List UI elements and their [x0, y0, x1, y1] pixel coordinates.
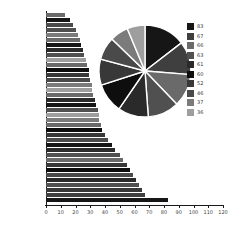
bar: [46, 108, 98, 112]
bar: [46, 178, 136, 182]
legend-swatch: [187, 42, 194, 49]
legend-swatch: [187, 52, 194, 59]
legend-item: 66: [187, 42, 203, 49]
legend-swatch: [187, 80, 194, 87]
bar: [46, 58, 86, 62]
bar: [46, 133, 105, 137]
x-tick-mark: [223, 205, 224, 208]
legend-label: 67: [197, 33, 203, 40]
bar: [46, 98, 95, 102]
x-tick-mark: [194, 205, 195, 208]
bar: [46, 128, 102, 132]
legend-item: 63: [187, 52, 203, 59]
legend-swatch: [187, 90, 194, 97]
x-tick-mark: [135, 205, 136, 208]
bar: [46, 123, 101, 127]
legend-label: 83: [197, 23, 203, 30]
legend-item: 83: [187, 23, 203, 30]
legend-swatch: [187, 23, 194, 30]
x-tick-label: 50: [117, 209, 123, 215]
legend-swatch: [187, 109, 194, 116]
legend-label: 66: [197, 42, 203, 49]
bar: [46, 93, 93, 97]
x-tick-mark: [90, 205, 91, 208]
x-tick-label: 90: [176, 209, 182, 215]
legend-item: 46: [187, 90, 203, 97]
bar: [46, 198, 168, 202]
bar: [46, 83, 92, 87]
bar: [46, 193, 145, 197]
x-tick-label: 30: [87, 209, 93, 215]
x-tick-label: 20: [72, 209, 78, 215]
legend-item: 52: [187, 80, 203, 87]
bar: [46, 118, 99, 122]
bar: [46, 148, 115, 152]
legend-swatch: [187, 99, 194, 106]
x-tick-label: 70: [146, 209, 152, 215]
legend-item: 36: [187, 109, 203, 116]
legend-label: 46: [197, 90, 203, 97]
x-tick-mark: [208, 205, 209, 208]
pie-legend: 83676663616052463736: [187, 23, 203, 118]
legend-label: 36: [197, 109, 203, 116]
legend-item: 67: [187, 33, 203, 40]
pie-chart: [95, 21, 195, 121]
x-tick-mark: [149, 205, 150, 208]
bar: [46, 18, 70, 22]
bar: [46, 38, 80, 42]
x-tick-mark: [164, 205, 165, 208]
x-tick-mark: [61, 205, 62, 208]
bar: [46, 43, 81, 47]
legend-label: 63: [197, 52, 203, 59]
legend-swatch: [187, 61, 194, 68]
bar: [46, 168, 130, 172]
bar: [46, 68, 89, 72]
chart-canvas: 0102030405060708090100110120 83676663616…: [0, 0, 240, 230]
legend-item: 60: [187, 71, 203, 78]
legend-label: 60: [197, 71, 203, 78]
bar: [46, 33, 78, 37]
x-tick-mark: [120, 205, 121, 208]
legend-item: 61: [187, 61, 203, 68]
x-tick-mark: [105, 205, 106, 208]
legend-item: 37: [187, 99, 203, 106]
bar: [46, 143, 112, 147]
x-tick-label: 80: [161, 209, 167, 215]
bar: [46, 53, 84, 57]
legend-label: 61: [197, 61, 203, 68]
bar: [46, 113, 99, 117]
bar: [46, 188, 142, 192]
bar: [46, 63, 87, 67]
bar: [46, 158, 123, 162]
legend-swatch: [187, 71, 194, 78]
x-tick-label: 0: [44, 209, 47, 215]
bar: [46, 48, 83, 52]
x-tick-label: 40: [102, 209, 108, 215]
bar: [46, 173, 133, 177]
x-tick-label: 60: [131, 209, 137, 215]
legend-swatch: [187, 33, 194, 40]
x-tick-label: 110: [203, 209, 213, 215]
bar: [46, 153, 120, 157]
x-tick-label: 120: [218, 209, 228, 215]
bar: [46, 73, 89, 77]
x-tick-label: 100: [189, 209, 199, 215]
bar: [46, 183, 139, 187]
x-tick-mark: [46, 205, 47, 208]
legend-label: 37: [197, 99, 203, 106]
bar: [46, 78, 90, 82]
bar: [46, 13, 65, 17]
bar: [46, 88, 92, 92]
bar: [46, 28, 76, 32]
bar: [46, 163, 127, 167]
x-tick-label: 10: [58, 209, 64, 215]
bar: [46, 23, 73, 27]
bar: [46, 138, 108, 142]
bar: [46, 103, 96, 107]
x-tick-mark: [179, 205, 180, 208]
x-tick-mark: [76, 205, 77, 208]
legend-label: 52: [197, 80, 203, 87]
